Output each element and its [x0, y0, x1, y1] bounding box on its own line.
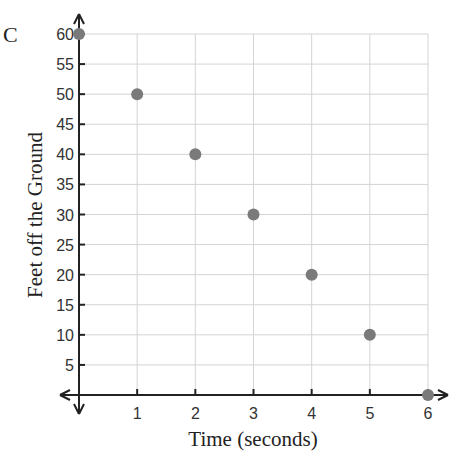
data-point	[306, 269, 318, 281]
y-tick-label: 55	[56, 56, 74, 73]
data-point	[248, 209, 260, 221]
x-tick-label: 6	[424, 405, 433, 422]
x-tick-label: 1	[133, 405, 142, 422]
y-tick-label: 50	[56, 86, 74, 103]
data-point	[422, 389, 434, 401]
x-tick-label: 5	[365, 405, 374, 422]
y-tick-label: 30	[56, 207, 74, 224]
scatter-chart: 123456 51015202530354045505560 Time (sec…	[0, 0, 472, 467]
y-tick-label: 35	[56, 176, 74, 193]
y-tick-label: 60	[56, 26, 74, 43]
x-tick-label: 2	[191, 405, 200, 422]
corner-label: C	[3, 22, 18, 47]
data-point	[131, 88, 143, 100]
x-axis-title: Time (seconds)	[188, 427, 317, 451]
data-point	[189, 148, 201, 160]
x-tick-label: 3	[249, 405, 258, 422]
y-tick-label: 40	[56, 146, 74, 163]
y-tick-labels: 51015202530354045505560	[56, 26, 74, 374]
y-tick-label: 20	[56, 267, 74, 284]
y-tick-label: 45	[56, 116, 74, 133]
y-tick-label: 15	[56, 297, 74, 314]
y-tick-label: 25	[56, 237, 74, 254]
data-point	[73, 28, 85, 40]
x-tick-label: 4	[307, 405, 316, 422]
y-axis-title: Feet off the Ground	[23, 132, 47, 298]
y-tick-label: 10	[56, 327, 74, 344]
y-tick-label: 5	[65, 357, 74, 374]
data-point	[364, 329, 376, 341]
x-tick-labels: 123456	[133, 405, 433, 422]
